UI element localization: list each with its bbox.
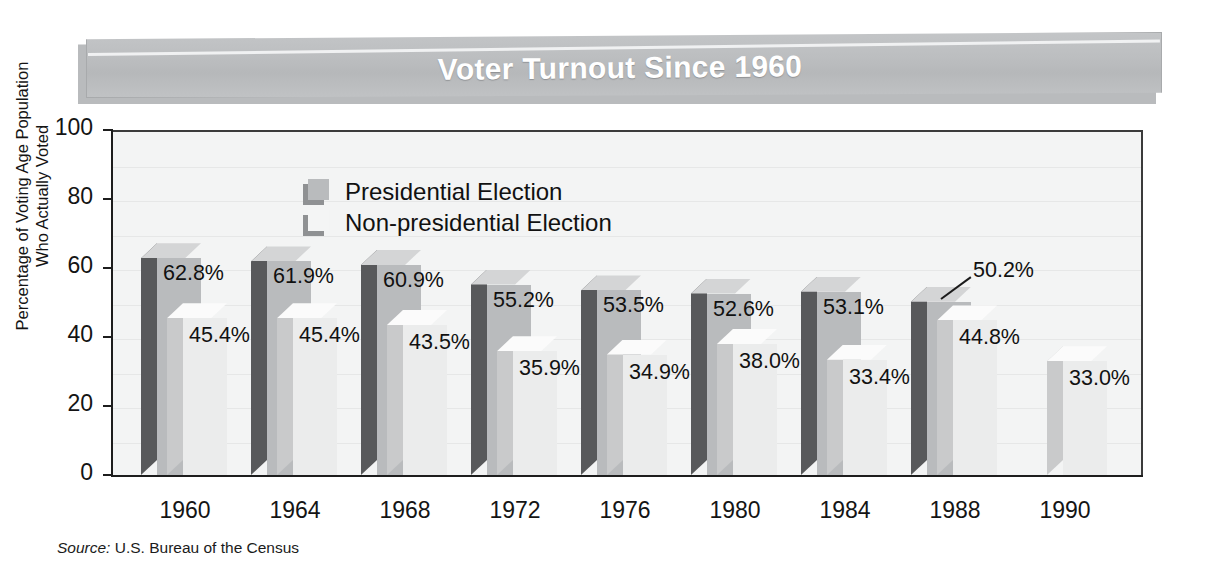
- x-axis-line: [111, 475, 1143, 477]
- bar-side-face: [167, 303, 183, 475]
- bar-top-face: [141, 243, 201, 258]
- bar-value-label-presidential-1968: 60.9%: [383, 268, 444, 293]
- bar-side-face: [387, 310, 403, 475]
- y-tick-mark: [103, 267, 113, 269]
- legend-swatch-icon: [303, 179, 329, 205]
- legend-label: Non-presidential Election: [345, 209, 612, 237]
- bar-top-face: [251, 246, 311, 261]
- bar-value-label-nonpresidential-1960: 45.4%: [189, 323, 250, 348]
- bar-side-face: [937, 305, 953, 475]
- bar-side-face: [1047, 346, 1063, 475]
- source-note: Source: U.S. Bureau of the Census: [57, 539, 299, 557]
- bar-side-face: [471, 270, 487, 475]
- bar-top-face: [827, 345, 887, 360]
- bar-value-label-presidential-1984: 53.1%: [823, 295, 884, 320]
- bar-value-label-presidential-1960: 62.8%: [163, 261, 224, 286]
- bar-value-label-nonpresidential-1972: 35.9%: [519, 356, 580, 381]
- bar-top-face: [717, 329, 777, 344]
- bar-side-face: [827, 345, 843, 475]
- bar-top-face: [937, 305, 997, 320]
- x-axis-label-1990: 1990: [1005, 497, 1125, 524]
- bar-side-face: [911, 287, 927, 475]
- x-axis-label-1972: 1972: [455, 497, 575, 524]
- gridline: [113, 167, 1141, 168]
- y-tick-mark: [103, 129, 113, 131]
- bar-side-face: [691, 279, 707, 475]
- legend-item-nonpresidential: Non-presidential Election: [303, 209, 612, 237]
- y-tick-mark: [103, 198, 113, 200]
- bar-side-face: [361, 250, 377, 475]
- legend-item-presidential: Presidential Election: [303, 178, 562, 206]
- x-axis-label-1976: 1976: [565, 497, 685, 524]
- bar-side-face: [801, 277, 817, 475]
- bar-side-face: [607, 340, 623, 475]
- gridline: [113, 201, 1141, 202]
- bar-top-face: [607, 340, 667, 355]
- bar-top-face: [361, 250, 421, 265]
- legend-label: Presidential Election: [345, 178, 562, 206]
- legend-swatch-icon: [303, 210, 329, 236]
- bar-value-label-presidential-1980: 52.6%: [713, 297, 774, 322]
- x-axis-label-1960: 1960: [125, 497, 245, 524]
- bar-top-face: [167, 303, 227, 318]
- bar-side-face: [717, 329, 733, 475]
- y-axis-title-line1: Percentage of Voting Age Population: [12, 16, 32, 376]
- bar-side-face: [277, 303, 293, 475]
- bar-side-face: [581, 275, 597, 475]
- x-axis-label-1964: 1964: [235, 497, 355, 524]
- bar-top-face: [471, 270, 531, 285]
- bar-top-face: [277, 303, 337, 318]
- bar-top-face: [1047, 346, 1107, 361]
- bar-value-label-nonpresidential-1980: 38.0%: [739, 349, 800, 374]
- x-axis-label-1968: 1968: [345, 497, 465, 524]
- bar-value-label-nonpresidential-1976: 34.9%: [629, 360, 690, 385]
- bar-value-label-presidential-1972: 55.2%: [493, 288, 554, 313]
- bar-value-label-presidential-1964: 61.9%: [273, 264, 334, 289]
- x-axis-label-1984: 1984: [785, 497, 905, 524]
- chart-title: Voter Turnout Since 1960: [78, 27, 1163, 109]
- y-tick-mark: [103, 336, 113, 338]
- title-banner: Voter Turnout Since 1960: [78, 32, 1162, 108]
- source-label: Source:: [57, 539, 110, 556]
- bar-side-face: [251, 246, 267, 475]
- bar-top-face: [497, 336, 557, 351]
- bar-annotation-label-1988: 50.2%: [973, 258, 1034, 283]
- source-value: U.S. Bureau of the Census: [110, 539, 299, 556]
- x-axis-label-1980: 1980: [675, 497, 795, 524]
- y-axis-title-line2: Who Actually Voted: [32, 16, 52, 376]
- gridline: [113, 236, 1141, 237]
- bar-top-face: [801, 277, 861, 292]
- bar-top-face: [387, 310, 447, 325]
- bar-value-label-presidential-1976: 53.5%: [603, 293, 664, 318]
- y-tick-mark: [103, 474, 113, 476]
- bar-value-label-nonpresidential-1990: 33.0%: [1069, 366, 1130, 391]
- y-tick-label: 20: [33, 390, 93, 417]
- bar-side-face: [141, 243, 157, 475]
- bar-value-label-nonpresidential-1984: 33.4%: [849, 365, 910, 390]
- bar-top-face: [581, 275, 641, 290]
- bar-value-label-nonpresidential-1968: 43.5%: [409, 330, 470, 355]
- bar-value-label-nonpresidential-1964: 45.4%: [299, 323, 360, 348]
- y-axis-line: [111, 129, 113, 477]
- bar-side-face: [497, 336, 513, 475]
- y-tick-mark: [103, 405, 113, 407]
- y-tick-label: 0: [33, 459, 93, 486]
- y-axis-title: Percentage of Voting Age Population Who …: [12, 16, 52, 376]
- bar-value-label-nonpresidential-1988: 44.8%: [959, 325, 1020, 350]
- x-axis-label-1988: 1988: [895, 497, 1015, 524]
- bar-top-face: [691, 279, 751, 294]
